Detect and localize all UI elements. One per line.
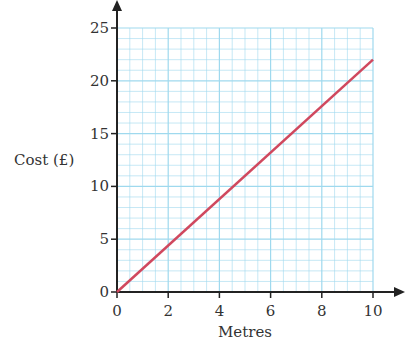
x-tick-label: 8 — [317, 302, 327, 320]
axes — [112, 0, 405, 297]
grid — [117, 28, 373, 292]
x-tick-label: 2 — [163, 302, 173, 320]
x-axis-label: Metres — [218, 323, 272, 341]
y-tick-label: 5 — [99, 230, 109, 248]
x-tick-label: 4 — [215, 302, 225, 320]
x-tick-label: 6 — [266, 302, 276, 320]
y-tick-label: 25 — [90, 19, 109, 37]
x-tick-label: 0 — [112, 302, 122, 320]
x-axis-arrow-icon — [394, 287, 405, 297]
ticks: 02468100510152025 — [90, 19, 383, 320]
y-axis-arrow-icon — [112, 0, 122, 11]
x-tick-label: 10 — [363, 302, 382, 320]
y-axis-label: Cost (£) — [14, 151, 74, 169]
y-tick-label: 15 — [90, 125, 109, 143]
chart: 02468100510152025 Metres Cost (£) — [0, 0, 405, 352]
y-tick-label: 20 — [90, 72, 109, 90]
y-tick-label: 0 — [99, 283, 109, 301]
y-tick-label: 10 — [90, 177, 109, 195]
